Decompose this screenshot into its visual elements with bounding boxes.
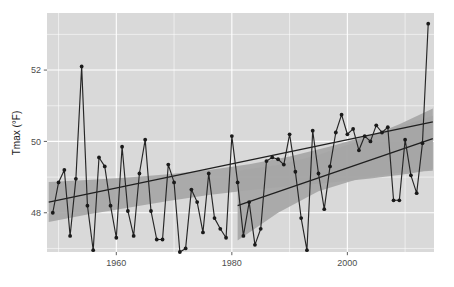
data-point [340, 113, 344, 117]
data-point [392, 198, 396, 202]
x-tick-label: 1960 [106, 258, 126, 268]
data-point [97, 156, 101, 160]
data-point [241, 234, 245, 238]
data-point [190, 188, 194, 192]
data-point [374, 123, 378, 127]
data-point [57, 181, 61, 185]
data-point [386, 125, 390, 129]
data-point [259, 227, 263, 231]
data-point [218, 227, 222, 231]
data-point [195, 200, 199, 204]
data-point [132, 234, 136, 238]
data-point [409, 173, 413, 177]
data-point [403, 138, 407, 142]
data-point [207, 172, 211, 176]
data-point [299, 216, 303, 220]
data-point [253, 243, 257, 247]
chart-container: 196019802000 485052 Tmax (°F) [0, 0, 454, 287]
data-point [334, 131, 338, 135]
data-point [230, 134, 234, 138]
data-point [201, 230, 205, 234]
data-point [51, 211, 55, 215]
data-point [74, 177, 78, 181]
data-point [120, 145, 124, 149]
data-point [166, 163, 170, 167]
data-point [172, 181, 176, 185]
data-point [311, 129, 315, 133]
data-point [236, 181, 240, 185]
data-point [213, 216, 217, 220]
data-point [184, 247, 188, 251]
data-point [363, 134, 367, 138]
data-point [328, 164, 332, 168]
y-tick-label: 50 [31, 137, 41, 147]
data-point [317, 172, 321, 176]
data-point [114, 236, 118, 240]
data-point [224, 236, 228, 240]
data-point [380, 131, 384, 135]
data-point [109, 204, 113, 208]
data-point [178, 250, 182, 254]
data-point [421, 141, 425, 145]
data-point [91, 248, 95, 252]
data-point [265, 159, 269, 163]
x-tick-label: 1980 [222, 258, 242, 268]
data-point [138, 172, 142, 176]
data-point [103, 164, 107, 168]
data-point [293, 170, 297, 174]
data-point [357, 148, 361, 152]
data-point [322, 207, 326, 211]
data-point [351, 127, 355, 131]
data-point [345, 132, 349, 136]
data-point [247, 200, 251, 204]
data-point [270, 156, 274, 160]
x-tick-label: 2000 [337, 258, 357, 268]
data-point [62, 168, 66, 172]
data-point [276, 157, 280, 161]
data-point [68, 234, 72, 238]
tmax-timeseries-chart: 196019802000 485052 Tmax (°F) [0, 0, 454, 287]
data-point [161, 238, 165, 242]
y-tick-label: 52 [31, 65, 41, 75]
data-point [126, 209, 130, 213]
data-point [80, 65, 84, 69]
y-tick-label: 48 [31, 208, 41, 218]
data-point [369, 140, 373, 144]
data-point [86, 204, 90, 208]
y-axis-title: Tmax (°F) [11, 111, 22, 156]
data-point [288, 132, 292, 136]
data-point [305, 248, 309, 252]
data-point [426, 22, 430, 26]
data-point [143, 138, 147, 142]
data-point [155, 238, 159, 242]
data-point [415, 191, 419, 195]
data-point [282, 163, 286, 167]
data-point [149, 209, 153, 213]
data-point [397, 198, 401, 202]
